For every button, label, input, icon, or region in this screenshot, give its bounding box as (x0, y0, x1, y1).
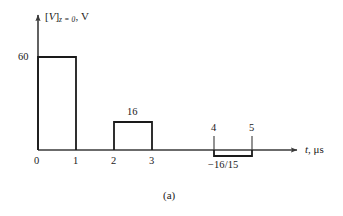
value-label-neg-16-15: −16/15 (208, 160, 238, 171)
x-axis-label: t, μs (305, 144, 324, 155)
figure-caption: (a) (163, 190, 175, 201)
x-tick-label-5: 5 (249, 123, 254, 134)
pulse-bar-16 (114, 122, 152, 150)
value-label-16: 16 (127, 107, 138, 118)
x-tick-label-1: 1 (73, 156, 78, 167)
pulse-bar-60 (38, 57, 76, 150)
y-axis-label-subscript: z = 0 (59, 15, 75, 24)
x-tick-label-4: 4 (211, 123, 216, 134)
x-axis-label-unit: μs (314, 143, 324, 155)
plot-canvas (0, 0, 343, 216)
y-axis-label-unit: V (81, 10, 89, 22)
y-tick-label-60: 60 (18, 52, 29, 63)
x-tick-label-3: 3 (149, 156, 154, 167)
pulse-bar-neg16-15 (214, 150, 252, 156)
x-tick-label-0: 0 (34, 156, 39, 167)
y-axis-label: [V]z = 0, V (45, 11, 89, 23)
x-tick-label-2: 2 (111, 156, 116, 167)
figure-container: [V]z = 0, V t, μs 60 16 −16/15 0 1 2 3 4… (0, 0, 343, 216)
